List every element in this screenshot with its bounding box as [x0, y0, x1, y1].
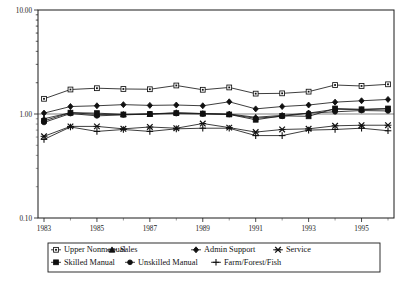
y-tick-label: 10.00 — [16, 7, 33, 15]
figure-container: 10.001.000.10 19831985198719891991199319… — [0, 0, 416, 284]
x-tick-label: 1987 — [143, 225, 158, 233]
y-tick-label: 1.00 — [19, 111, 32, 119]
legend-label: Service — [286, 245, 311, 254]
x-tick-label: 1983 — [37, 225, 52, 233]
x-tick-label: 1993 — [301, 225, 316, 233]
x-tick-label: 1985 — [90, 225, 105, 233]
x-tick-label: 1991 — [249, 225, 264, 233]
x-tick-label: 1995 — [354, 225, 369, 233]
chart-legend: Upper NonmanualSalesAdmin SupportService… — [48, 243, 380, 272]
legend-label: Skilled Manual — [64, 258, 116, 267]
legend-label: Farm/Forest/Fish — [224, 258, 282, 267]
x-tick-label: 1989 — [196, 225, 211, 233]
legend-label: Sales — [120, 245, 138, 254]
line-chart: 10.001.000.10 19831985198719891991199319… — [0, 0, 416, 284]
chart-background — [0, 0, 416, 284]
legend-label: Unskilled Manual — [138, 258, 198, 267]
y-tick-label: 0.10 — [19, 215, 32, 223]
legend-label: Admin Support — [204, 245, 256, 254]
